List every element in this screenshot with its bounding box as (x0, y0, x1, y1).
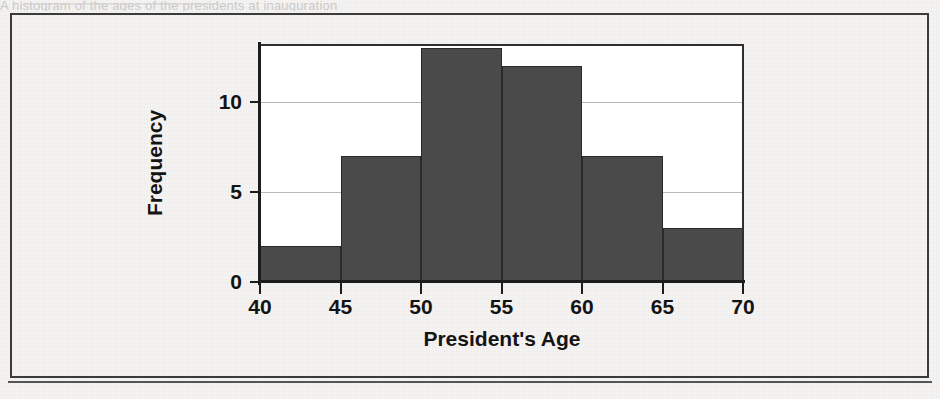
plot-frame-right (742, 44, 744, 283)
x-tick-50 (420, 283, 422, 294)
x-tick-65 (662, 283, 664, 294)
x-tick-70 (742, 283, 744, 294)
y-tick-label: 5 (182, 181, 242, 202)
x-tick-label: 55 (472, 296, 532, 317)
x-tick-label: 40 (230, 296, 290, 317)
x-tick-label: 50 (391, 296, 451, 317)
y-tick-label: 10 (182, 91, 242, 112)
scanned-page: A histogram of the ages of the president… (0, 0, 940, 399)
histogram-bar (502, 66, 583, 282)
y-tick-label: 0 (182, 271, 242, 292)
histogram-bar (421, 48, 502, 282)
bars-group (260, 44, 743, 282)
y-axis-spine (258, 42, 261, 285)
x-tick-60 (581, 283, 583, 294)
y-tick-10 (250, 101, 260, 103)
page-ghost-text: A histogram of the ages of the president… (0, 0, 940, 11)
x-tick-55 (501, 283, 503, 294)
page-ghost-rule (23, 3, 215, 5)
plot-frame-top (260, 44, 744, 46)
plot-area (260, 44, 743, 282)
x-tick-label: 45 (311, 296, 371, 317)
x-tick-40 (259, 283, 261, 294)
histogram-chart: 0510 40455055606570 Frequency President'… (12, 15, 931, 380)
x-tick-label: 70 (713, 296, 773, 317)
ghost-text-content: A histogram of the ages of the president… (0, 0, 337, 11)
x-tick-label: 65 (633, 296, 693, 317)
histogram-bar (582, 156, 663, 282)
histogram-bar (260, 246, 341, 282)
y-tick-5 (250, 191, 260, 193)
y-axis-title: Frequency (142, 44, 168, 282)
x-tick-45 (340, 283, 342, 294)
x-axis-title: President's Age (260, 327, 744, 351)
figure-box: 0510 40455055606570 Frequency President'… (10, 13, 929, 378)
histogram-bar (663, 228, 744, 282)
histogram-bar (341, 156, 422, 282)
page-bottom-rule (8, 381, 932, 383)
x-tick-label: 60 (552, 296, 612, 317)
